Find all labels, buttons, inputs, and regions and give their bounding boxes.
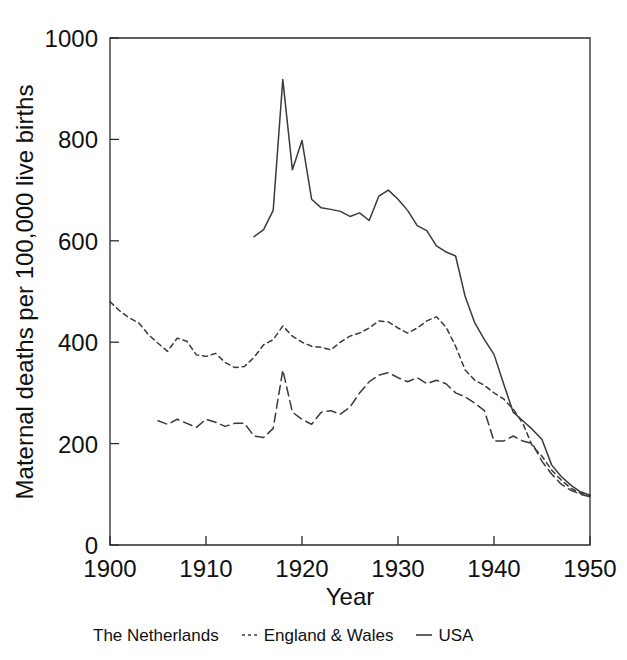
y-tick-label: 200	[58, 431, 98, 458]
x-tick-label: 1900	[83, 555, 136, 582]
y-axis-title: Maternal deaths per 100,000 live births	[11, 85, 38, 500]
x-axis-title: Year	[326, 583, 375, 610]
x-tick-label: 1910	[179, 555, 232, 582]
y-axis-tick-labels: 02004006008001000	[45, 25, 98, 559]
x-tick-label: 1920	[275, 555, 328, 582]
x-tick-label: 1950	[563, 555, 616, 582]
chart-legend: The NetherlandsEngland & WalesUSA	[28, 618, 627, 652]
maternal-mortality-chart: 02004006008001000 1900191019201930194019…	[0, 0, 627, 660]
plot-frame	[110, 38, 590, 545]
legend-entry: The Netherlands	[88, 627, 219, 644]
y-tick-label: 600	[58, 228, 98, 255]
x-tick-label: 1930	[371, 555, 424, 582]
y-tick-label: 1000	[45, 25, 98, 52]
legend-entry: England & Wales	[241, 627, 394, 644]
legend-label: England & Wales	[264, 627, 394, 644]
chart-canvas: 02004006008001000 1900191019201930194019…	[0, 0, 627, 660]
y-tick-label: 400	[58, 329, 98, 356]
x-tick-label: 1940	[467, 555, 520, 582]
y-tick-label: 800	[58, 126, 98, 153]
series-lines	[110, 80, 590, 497]
short-dash-swatch	[241, 630, 259, 640]
x-axis-tick-labels: 190019101920193019401950	[83, 555, 616, 582]
solid-dash-swatch	[415, 630, 433, 640]
series-line-england-wales	[110, 302, 590, 496]
legend-label: USA	[438, 627, 473, 644]
legend-label: The Netherlands	[93, 627, 219, 644]
legend-entry: USA	[415, 627, 473, 644]
series-line-usa	[254, 80, 590, 496]
series-line-the-netherlands	[158, 370, 590, 497]
axis-tick-marks	[110, 38, 590, 545]
